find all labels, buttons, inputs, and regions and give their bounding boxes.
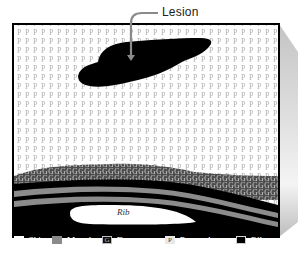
- legend-label-skin: Skin: [28, 235, 45, 246]
- fat-swatch-icon: G: [102, 236, 112, 244]
- legend-item-muscle: Muscle: [52, 235, 95, 246]
- lesion-label: Lesion: [162, 5, 199, 19]
- muscle-swatch-icon: [52, 236, 62, 244]
- parenchyma-swatch-icon: P: [165, 236, 175, 244]
- legend-label-muscle: Muscle: [66, 235, 95, 246]
- legend-label-fat: Fat: [116, 235, 130, 246]
- legend-label-rib-cage: Rib cage: [250, 235, 285, 246]
- breast-tissue-diagram: P G Rib: [0, 0, 299, 254]
- legend-item-parenchyma: P Parenchyma: [165, 235, 229, 246]
- legend-item-rib-cage: Rib cage: [236, 235, 285, 246]
- rib-label: Rib: [116, 207, 130, 217]
- legend: Skin Muscle G Fat P Parenchyma Rib cage: [14, 232, 278, 248]
- legend-label-parenchyma: Parenchyma: [179, 235, 229, 246]
- legend-item-fat: G Fat: [102, 235, 130, 246]
- skin-swatch-icon: [14, 236, 24, 244]
- legend-item-skin: Skin: [14, 235, 45, 246]
- rib-cage-swatch-icon: [236, 236, 246, 244]
- frame-extrusion: [279, 24, 298, 237]
